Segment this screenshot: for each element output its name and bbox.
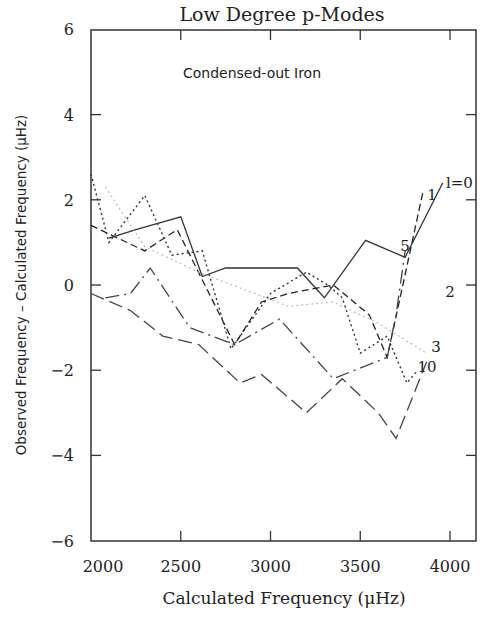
series-label-l-2: 2	[445, 283, 455, 301]
x-axis-label: Calculated Frequency (μHz)	[162, 588, 405, 608]
chart-title: Low Degree p-Modes	[179, 3, 384, 25]
x-tick-label: 4000	[430, 557, 471, 576]
series-line-l-2	[91, 174, 418, 383]
y-tick-label: −6	[50, 532, 74, 551]
series-line-l-10	[91, 294, 427, 439]
y-tick-label: −2	[50, 361, 74, 380]
y-tick-labels: 6420−2−4−6	[50, 20, 74, 550]
chart: Low Degree p-Modes 20002500300035004000 …	[0, 0, 483, 618]
series-label-l-10: 10	[417, 358, 436, 376]
y-tick-label: 6	[64, 20, 74, 39]
series-line-l-0	[109, 183, 443, 298]
y-tick-label: −4	[50, 446, 74, 465]
series-labels: l=0123510	[400, 174, 473, 376]
y-tick-label: 0	[64, 276, 74, 295]
series-label-l-0: l=0	[446, 174, 473, 192]
series-label-l-5: 5	[400, 237, 410, 255]
series-label-l-3: 3	[431, 338, 441, 356]
series-label-l-1: 1	[427, 186, 437, 204]
series-lines	[91, 174, 443, 438]
y-axis-label: Observed Frequency – Calculated Frequenc…	[13, 115, 29, 456]
x-tick-label: 3000	[250, 557, 291, 576]
x-tick-label: 2500	[160, 557, 201, 576]
y-tick-label: 4	[64, 106, 74, 125]
y-tick-label: 2	[64, 191, 74, 210]
chart-annotation: Condensed-out Iron	[183, 65, 321, 81]
x-tick-labels: 20002500300035004000	[83, 557, 471, 576]
x-tick-label: 2000	[83, 557, 124, 576]
x-tick-label: 3500	[340, 557, 381, 576]
